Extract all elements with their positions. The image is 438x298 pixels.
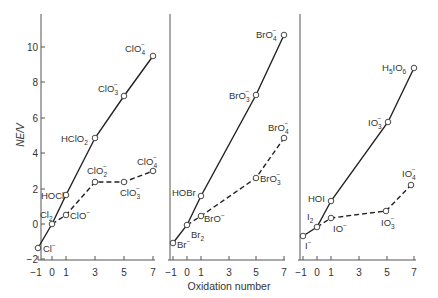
data-point	[281, 32, 287, 38]
data-point	[184, 222, 190, 228]
x-tick-label: 3	[92, 267, 98, 278]
data-point	[92, 179, 98, 185]
point-label: HClO2	[61, 133, 88, 146]
point-label: IO−	[333, 222, 347, 234]
x-tick-label: 3	[226, 267, 232, 278]
data-point	[253, 175, 259, 181]
point-label: Cl2	[40, 209, 53, 222]
x-tick-label: 1	[63, 267, 69, 278]
y-tick-label: 2	[32, 184, 38, 195]
point-label: ClO−	[70, 209, 90, 221]
point-label: HOBr	[172, 187, 196, 198]
y-tick-label: 10	[27, 42, 39, 53]
x-tick-label: 7	[411, 267, 417, 278]
point-label: BrO−	[204, 212, 225, 224]
halogen-frost-diagrams: NE/V 10 8 6 4 2 0 −2	[0, 0, 438, 298]
y-tick-label: 8	[32, 77, 38, 88]
data-point	[328, 215, 334, 221]
x-tick-label: −1	[165, 267, 177, 278]
x-tick-label: 7	[281, 267, 287, 278]
panel-chlorine: 10 8 6 4 2 0 −2 −1 0 1 3 5 7	[27, 14, 158, 278]
point-label: ClO3−	[98, 81, 118, 96]
point-label: I2	[307, 211, 314, 224]
point-label: ClO4−	[137, 154, 157, 169]
y-tick-label: 0	[32, 219, 38, 230]
data-point	[150, 168, 156, 174]
acid-line	[173, 35, 284, 243]
x-tick-label: 0	[314, 267, 320, 278]
point-label: I−	[305, 239, 312, 251]
data-point	[150, 53, 156, 59]
x-tick-label: 1	[328, 267, 334, 278]
data-point	[49, 221, 55, 227]
x-ticks: −1 0 1 3 5 7	[165, 256, 287, 278]
x-tick-label: −1	[295, 267, 307, 278]
acid-line	[38, 56, 153, 248]
y-axis-label: NE/V	[15, 122, 26, 147]
x-tick-label: −1	[30, 267, 42, 278]
data-point	[198, 213, 204, 219]
x-tick-label: 5	[121, 267, 127, 278]
data-point	[92, 135, 98, 141]
point-label: BrO4−	[268, 120, 289, 135]
point-label: H5IO6	[382, 62, 407, 75]
x-axis-label: Oxidation number	[188, 280, 271, 292]
point-label: Br2	[191, 229, 205, 242]
point-label: BrO3−	[229, 88, 250, 103]
panel-iodine: −1 0 1 3 5 7 I− I2 HOI IO− IO3− H5IO6 IO…	[295, 14, 417, 278]
data-point	[198, 193, 204, 199]
data-point	[385, 119, 391, 125]
point-label: ClO3−	[120, 185, 140, 200]
acid-line	[303, 68, 414, 236]
data-point	[281, 135, 287, 141]
x-tick-label: 0	[184, 267, 190, 278]
x-tick-label: 0	[49, 267, 55, 278]
point-label: ClO2−	[87, 163, 107, 178]
data-point	[328, 198, 334, 204]
x-tick-label: 5	[253, 267, 259, 278]
point-label: Cl−	[43, 242, 56, 254]
data-point	[63, 212, 69, 218]
data-point	[411, 65, 417, 71]
point-label: ClO4−	[125, 41, 145, 56]
x-tick-label: 1	[198, 267, 204, 278]
data-point	[314, 224, 320, 230]
point-label: IO3−	[381, 215, 395, 230]
point-label: IO3−	[368, 115, 382, 130]
point-label: IO4−	[402, 166, 416, 181]
y-tick-label: −2	[27, 254, 39, 265]
data-point	[408, 182, 414, 188]
point-label: HOI	[308, 193, 325, 204]
data-point	[253, 92, 259, 98]
y-tick-label: 6	[32, 113, 38, 124]
y-tick-label: 4	[32, 148, 38, 159]
point-label: HOCl	[41, 190, 64, 201]
y-ticks: 10 8 6 4 2 0 −2	[27, 42, 45, 265]
point-label: BrO3−	[260, 171, 281, 186]
x-tick-label: 7	[150, 267, 156, 278]
point-label: BrO4−	[256, 27, 277, 42]
data-point	[170, 240, 176, 246]
point-label: Br−	[177, 238, 191, 250]
x-tick-label: 5	[384, 267, 390, 278]
x-ticks: −1 0 1 3 5 7	[30, 256, 156, 278]
panel-bromine: −1 0 1 3 5 7 Br− Br2 HOBr BrO− BrO3− BrO…	[165, 14, 289, 292]
data-point	[35, 245, 41, 251]
data-point	[300, 233, 306, 239]
x-ticks: −1 0 1 3 5 7	[295, 256, 417, 278]
x-tick-label: 3	[356, 267, 362, 278]
data-point	[121, 179, 127, 185]
data-point	[121, 93, 127, 99]
data-point	[383, 208, 389, 214]
